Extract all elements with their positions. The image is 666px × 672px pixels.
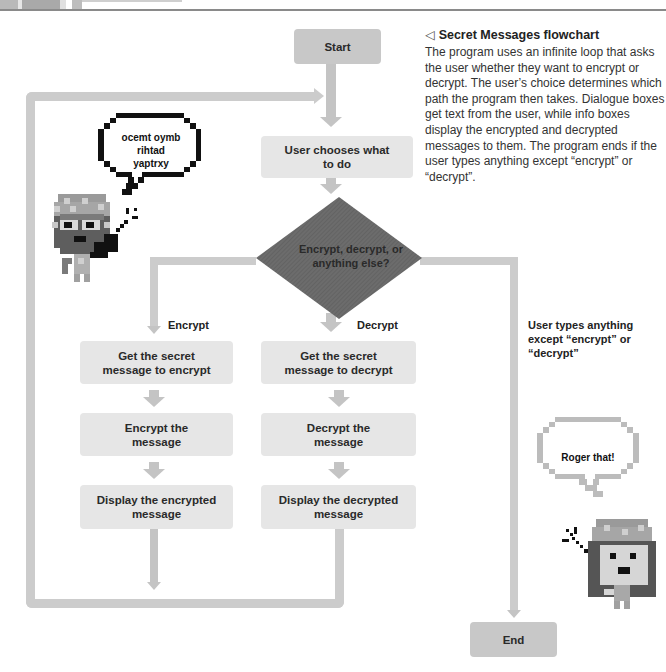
encrypt-branch-horizontal — [150, 257, 256, 265]
other-branch-horizontal — [420, 257, 518, 265]
decrypt-arrow-1 — [328, 397, 350, 407]
encrypt-arrow-2 — [143, 469, 165, 479]
pixel-character-right — [552, 517, 664, 621]
decrypt-step-decrypt: Decrypt the message — [261, 413, 416, 456]
encrypt-to-loop-arrow — [147, 582, 161, 590]
loop-arrow-right — [314, 88, 324, 104]
encrypt-branch-vertical — [150, 257, 158, 327]
triangle-left-icon: ◁ — [425, 28, 435, 42]
caption-heading: ◁Secret Messages flowchart — [425, 27, 599, 42]
choose-arrow — [320, 184, 342, 194]
header-rule — [0, 9, 666, 11]
loop-line-bottom — [26, 599, 344, 608]
caption-body: The program uses an infinite loop that a… — [425, 45, 665, 185]
page-header-divider — [72, 0, 82, 9]
decrypt-step-get: Get the secret message to decrypt — [261, 341, 416, 384]
decrypt-arrow-2 — [328, 469, 350, 479]
start-stem — [326, 64, 336, 118]
start-arrow — [320, 117, 342, 127]
end-node: End — [470, 622, 557, 657]
start-node: Start — [294, 29, 381, 64]
other-branch-label: User types anything except “encrypt” or … — [528, 318, 638, 360]
end-arrow — [507, 610, 521, 618]
decrypt-step-display: Display the decrypted message — [261, 485, 416, 529]
encrypt-step-encrypt: Encrypt the message — [80, 413, 233, 456]
choose-node: User chooses what to do — [261, 136, 413, 178]
encrypt-step-display: Display the encrypted message — [80, 485, 233, 529]
page-title-stub — [82, 0, 182, 2]
speech-bubble-right-text: Roger that! — [555, 451, 621, 464]
loop-line-top — [26, 92, 316, 101]
encrypt-to-loop-stem — [150, 529, 158, 583]
decision-label: Encrypt, decrypt, or anything else? — [298, 242, 404, 270]
loop-line-decrypt-down — [335, 529, 344, 608]
caption-title: Secret Messages flowchart — [439, 28, 600, 42]
encrypt-step-get: Get the secret message to encrypt — [80, 341, 233, 384]
other-branch-vertical — [510, 257, 518, 612]
decrypt-branch-label: Decrypt — [357, 318, 398, 332]
encrypt-arrow-1 — [143, 397, 165, 407]
pixel-character-left — [50, 192, 150, 292]
speech-bubble-left-text: ocemt oymb rihtad yaptrxy — [118, 131, 184, 170]
encrypt-branch-label: Encrypt — [168, 318, 209, 332]
encrypt-branch-arrow — [147, 326, 161, 334]
decrypt-arrow — [320, 322, 342, 332]
loop-line-left — [26, 92, 35, 608]
page-number-tab — [0, 0, 66, 9]
